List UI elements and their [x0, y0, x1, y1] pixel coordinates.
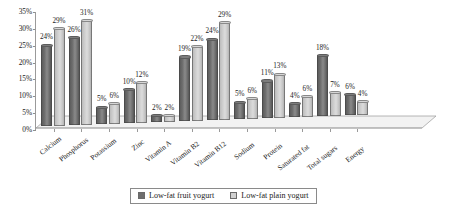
y-axis-tick-label: 15%: [19, 75, 32, 82]
bar-value-label: 31%: [80, 10, 93, 17]
bar-body: [262, 81, 273, 118]
bar-top-cap: [357, 100, 369, 103]
bar-light[interactable]: 31%: [81, 21, 92, 126]
chart-legend: Low-fat fruit yogurtLow-fat plain yogurt: [130, 188, 317, 204]
bar-light[interactable]: 7%: [330, 92, 341, 116]
bar-value-label: 6%: [345, 84, 355, 91]
bar-top-cap: [317, 54, 329, 57]
bar-body: [247, 99, 258, 119]
x-axis-tick-mark: [357, 129, 358, 132]
bar-group: 19%22%: [178, 12, 206, 130]
bar-body: [330, 92, 341, 116]
x-axis-tick-mark: [192, 129, 193, 132]
bar-dark[interactable]: 6%: [345, 95, 356, 115]
bar-top-cap: [123, 88, 135, 91]
legend-item[interactable]: Low-fat fruit yogurt: [138, 191, 214, 200]
bar-body: [179, 57, 190, 121]
bar-top-cap: [329, 91, 341, 94]
bar-top-cap: [234, 101, 246, 104]
bar-top-cap: [219, 21, 231, 24]
x-axis-tick-mark: [330, 129, 331, 132]
bar-light[interactable]: 29%: [219, 22, 230, 120]
bar-groups: 24%29%26%31%5%6%10%12%2%2%19%22%24%29%5%…: [36, 12, 367, 130]
bar-body: [207, 39, 218, 120]
bar-value-label: 7%: [330, 82, 340, 89]
x-axis-tick-mark: [81, 129, 82, 132]
bar-light[interactable]: 6%: [247, 99, 258, 119]
bar-value-label: 12%: [135, 72, 148, 79]
bar-top-cap: [289, 102, 301, 105]
bar-group: 10%12%: [123, 12, 151, 130]
y-axis-tick-label: 25%: [19, 42, 32, 49]
x-axis-labels: CalciumPhosphorusPotassiumZincVitamin AV…: [36, 131, 436, 183]
bar-value-label: 24%: [40, 34, 53, 41]
bar-value-label: 18%: [316, 45, 329, 52]
bar-dark[interactable]: 24%: [207, 39, 218, 120]
bar-value-label: 24%: [206, 28, 219, 35]
bar-dark[interactable]: 18%: [317, 55, 328, 116]
bar-value-label: 13%: [273, 63, 286, 70]
bar-body: [357, 102, 368, 115]
y-axis-tick-label: 20%: [19, 59, 32, 66]
x-axis-tick-mark: [109, 129, 110, 132]
bar-dark[interactable]: 19%: [179, 57, 190, 121]
bar-light[interactable]: 22%: [192, 47, 203, 121]
bar-top-cap: [151, 114, 163, 117]
bar-group: 24%29%: [206, 12, 234, 130]
bar-group: 18%7%: [316, 12, 344, 130]
y-axis-tick-label: 10%: [19, 92, 32, 99]
y-axis-tick-label: 5%: [22, 109, 32, 116]
bar-light[interactable]: 2%: [164, 115, 175, 122]
bar-body: [69, 37, 80, 125]
bar-group: 4%6%: [288, 12, 316, 130]
bar-dark[interactable]: 4%: [289, 104, 300, 117]
bar-light[interactable]: 4%: [357, 102, 368, 115]
bar-body: [302, 97, 313, 117]
bar-value-label: 6%: [109, 93, 119, 100]
bar-value-label: 4%: [290, 93, 300, 100]
bar-top-cap: [68, 36, 80, 39]
bar-dark[interactable]: 10%: [124, 89, 135, 123]
bar-top-cap: [136, 81, 148, 84]
bar-group: 2%2%: [150, 12, 178, 130]
bar-body: [81, 21, 92, 126]
bar-body: [41, 45, 52, 126]
bar-value-label: 2%: [152, 105, 162, 112]
bar-top-cap: [261, 79, 273, 82]
bar-body: [54, 28, 65, 126]
bar-body: [317, 55, 328, 116]
bar-light[interactable]: 12%: [136, 83, 147, 123]
bar-dark[interactable]: 5%: [96, 107, 107, 124]
legend-item[interactable]: Low-fat plain yogurt: [230, 191, 308, 200]
bar-group: 5%6%: [233, 12, 261, 130]
bar-body: [96, 107, 107, 124]
bar-body: [234, 102, 245, 119]
bar-top-cap: [179, 55, 191, 58]
y-axis-tick-label: 30%: [19, 25, 32, 32]
x-axis-tick-mark: [302, 129, 303, 132]
bar-dark[interactable]: 2%: [151, 115, 162, 122]
legend-swatch-light: [230, 192, 237, 199]
bar-value-label: 29%: [52, 18, 65, 25]
bar-light[interactable]: 13%: [274, 74, 285, 118]
bar-top-cap: [53, 27, 65, 30]
bar-light[interactable]: 6%: [109, 104, 120, 124]
x-axis-tick-mark: [137, 129, 138, 132]
x-axis-tick-mark: [219, 129, 220, 132]
bar-top-cap: [81, 19, 93, 22]
bar-light[interactable]: 29%: [54, 28, 65, 126]
bar-value-label: 29%: [218, 12, 231, 19]
bar-top-cap: [41, 44, 53, 47]
bar-dark[interactable]: 5%: [234, 102, 245, 119]
bar-value-label: 5%: [97, 96, 107, 103]
bar-body: [109, 104, 120, 124]
y-axis: 0%5%10%15%20%25%30%35%: [0, 0, 34, 140]
bar-light[interactable]: 6%: [302, 97, 313, 117]
x-axis-tick-mark: [247, 129, 248, 132]
bar-dark[interactable]: 11%: [262, 81, 273, 118]
bar-dark[interactable]: 26%: [69, 37, 80, 125]
bar-value-label: 5%: [235, 91, 245, 98]
bar-dark[interactable]: 24%: [41, 45, 52, 126]
bar-top-cap: [163, 114, 175, 117]
legend-swatch-dark: [138, 192, 145, 199]
